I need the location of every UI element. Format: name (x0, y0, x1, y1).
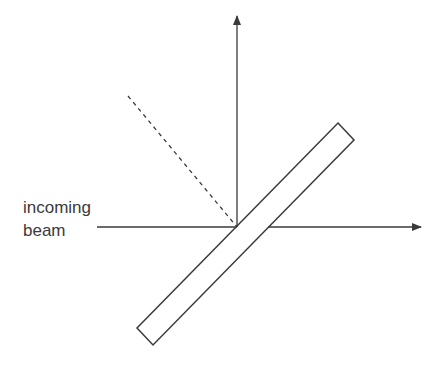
dashed-reflection-line (128, 96, 237, 227)
beam-splitter-slab (137, 123, 354, 345)
incoming-beam-label: incoming beam (23, 198, 91, 240)
incoming-label-line1: incoming (23, 198, 91, 217)
incoming-label-line2: beam (23, 221, 66, 240)
beam-splitter-diagram: incoming beam (0, 0, 437, 372)
